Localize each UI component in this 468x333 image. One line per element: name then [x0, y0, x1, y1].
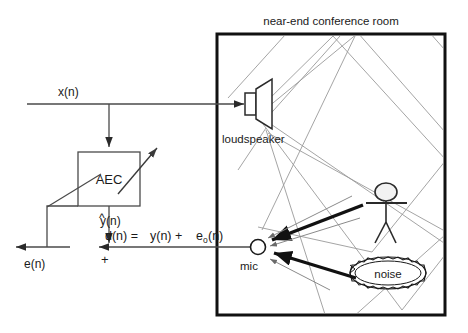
summing-plus-sign: +: [101, 252, 109, 267]
d-equation-part2: y(n) +: [150, 229, 182, 243]
room-title: near-end conference room: [263, 15, 399, 27]
d-equation-part1: d(n) =: [105, 229, 138, 243]
y-hat-text: y(n): [100, 214, 121, 228]
mic-label: mic: [240, 260, 258, 272]
mic-icon[interactable]: [251, 240, 266, 255]
x-signal-label: x(n): [58, 85, 79, 99]
e-signal-label: e(n): [24, 257, 45, 271]
d-equation: d(n) = y(n) + e o (n): [105, 229, 223, 245]
d-equation-part4: (n): [208, 229, 223, 243]
diagram-canvas: near-end conference room x(n) AEC ^ y(n)…: [0, 0, 468, 333]
e-feedback-path: [47, 206, 78, 247]
d-equation-part3: e: [196, 229, 203, 243]
aec-diagram: near-end conference room x(n) AEC ^ y(n)…: [0, 0, 468, 333]
loudspeaker-label: loudspeaker: [222, 133, 285, 145]
noise-label: noise: [374, 268, 402, 280]
noise-icon: noise: [350, 257, 426, 289]
